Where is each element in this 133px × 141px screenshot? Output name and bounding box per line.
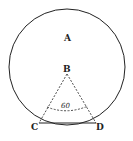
label-d: D [96,122,104,132]
label-c: C [31,122,38,132]
radius-bc [39,74,67,123]
radius-bd [67,74,96,123]
angle-label: 60 [61,102,70,110]
label-a: A [63,33,72,43]
geometry-diagram: A B C D 60 [0,0,133,141]
label-b: B [63,64,71,74]
